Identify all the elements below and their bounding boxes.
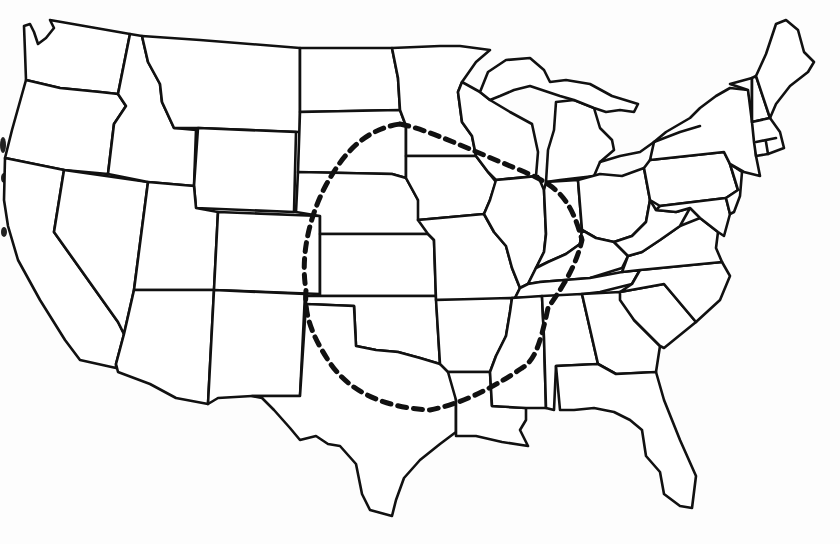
state-south-dakota xyxy=(298,110,406,178)
map-svg xyxy=(0,0,840,544)
states xyxy=(4,20,814,516)
us-outline-map xyxy=(0,0,840,544)
state-wyoming xyxy=(194,128,296,212)
state-maine xyxy=(756,20,814,118)
state-north-dakota xyxy=(300,48,400,112)
state-florida xyxy=(556,364,696,508)
state-kansas xyxy=(320,234,436,296)
state-new-mexico xyxy=(208,290,305,404)
state-oregon xyxy=(5,80,126,174)
state-arizona xyxy=(116,290,214,404)
